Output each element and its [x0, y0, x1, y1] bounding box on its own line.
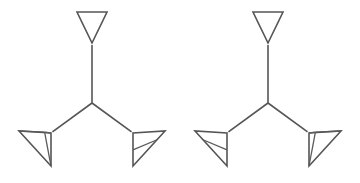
figure-background: [0, 0, 360, 183]
left-figure-lower-left-cone-internal-line-3: [45, 132, 51, 133]
right-figure-lower-right-cone-internal-line-3: [309, 132, 315, 133]
diagram-canvas: [0, 0, 360, 183]
tripod-pair-figure: [0, 0, 360, 183]
